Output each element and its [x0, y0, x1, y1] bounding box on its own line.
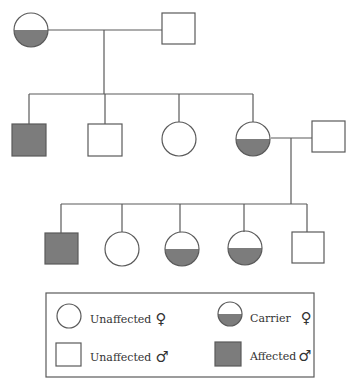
g1-female-carrier [14, 13, 48, 47]
legend-label: Unaffected [90, 351, 151, 364]
male-symbol-icon: ♂ [155, 348, 168, 366]
female-symbol-icon: ♀ [155, 310, 166, 328]
g3-son-affected [45, 233, 78, 264]
legend-label: Unaffected [90, 313, 151, 326]
legend-unaffected-male: Unaffected♂ [90, 347, 169, 365]
legend-unaffected-male-icon [56, 343, 81, 366]
legend-unaffected-female-icon [57, 304, 81, 328]
g3-daughter-carrier-1 [165, 232, 199, 266]
legend-label: Affected [250, 350, 296, 363]
g3-daughter-carrier-2 [228, 231, 262, 265]
g2-son-affected [12, 124, 46, 156]
female-symbol-icon: ♀ [301, 309, 312, 327]
male-symbol-icon: ♂ [298, 347, 311, 365]
g2-spouse-unaffected [312, 121, 345, 152]
g1-male-unaffected [162, 13, 195, 44]
g2-son-unaffected [88, 124, 122, 156]
g2-daughter-carrier [236, 122, 270, 156]
legend-affected-male: Affected♂ [250, 346, 312, 364]
legend-affected-male-icon [215, 342, 241, 366]
g3-daughter-unaffected [105, 232, 139, 266]
legend-label: Carrier [250, 312, 291, 325]
legend-carrier-female: Carrier♀ [250, 308, 312, 326]
legend-unaffected-female: Unaffected♀ [90, 309, 166, 327]
g2-daughter-unaffected [162, 122, 196, 156]
legend-box [46, 293, 314, 377]
g3-son-unaffected [292, 232, 324, 263]
pedigree-chart [0, 0, 358, 389]
